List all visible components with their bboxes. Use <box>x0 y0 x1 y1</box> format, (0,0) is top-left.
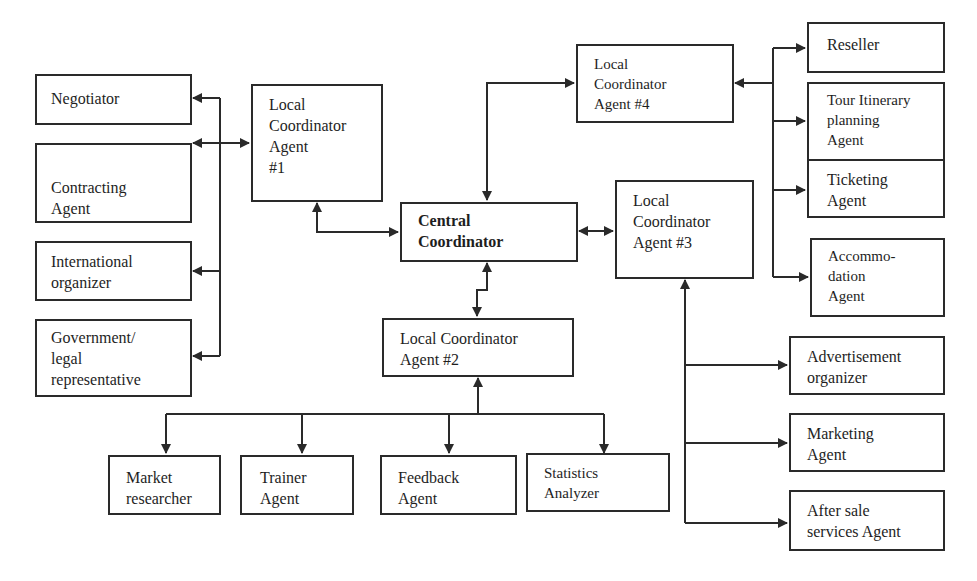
international-organizer-node: International organizer <box>35 241 192 301</box>
contracting-agent-node: Contracting Agent <box>35 143 192 223</box>
advertisement-organizer-node: Advertisement organizer <box>789 336 945 395</box>
local-coordinator-agent-2: Local Coordinator Agent #2 <box>382 318 574 377</box>
government-legal-representative-node: Government/ legal representative <box>35 319 192 397</box>
market-researcher-node: Market researcher <box>108 455 221 515</box>
accommodation-agent-node: Accommo- dation Agent <box>810 238 945 317</box>
node-label: Contracting Agent <box>51 177 190 219</box>
statistics-analyzer-node: Statistics Analyzer <box>526 453 670 512</box>
node-label: Local Coordinator Agent #4 <box>594 54 732 114</box>
node-label: Marketing Agent <box>807 423 943 465</box>
after-sale-services-agent-node: After sale services Agent <box>789 490 945 551</box>
node-label: International organizer <box>51 251 190 293</box>
local-coordinator-agent-4: Local Coordinator Agent #4 <box>576 44 734 123</box>
node-label: Local Coordinator Agent #2 <box>400 328 572 370</box>
node-label: Market researcher <box>126 467 219 509</box>
node-label: Ticketing Agent <box>827 169 943 211</box>
local-coordinator-agent-3: Local Coordinator Agent #3 <box>615 180 754 279</box>
ticketing-agent-node: Ticketing Agent <box>807 159 945 218</box>
arrow-lca4-central <box>487 83 574 200</box>
node-label: Accommo- dation Agent <box>828 246 943 306</box>
feedback-agent-node: Feedback Agent <box>380 455 517 515</box>
node-label: Trainer Agent <box>260 467 352 509</box>
node-label: After sale services Agent <box>807 500 943 542</box>
arrow-central-lca2 <box>477 263 487 316</box>
reseller-node: Reseller <box>807 22 945 73</box>
trainer-agent-node: Trainer Agent <box>240 455 354 515</box>
node-label: Reseller <box>827 34 943 55</box>
node-label: Statistics Analyzer <box>544 463 668 503</box>
tour-itinerary-planning-agent-node: Tour Itinerary planning Agent <box>807 82 945 161</box>
negotiator-node: Negotiator <box>35 74 192 125</box>
arrow-lca1-central <box>317 203 398 232</box>
marketing-agent-node: Marketing Agent <box>789 413 945 472</box>
node-label: Negotiator <box>51 88 190 109</box>
node-label: Tour Itinerary planning Agent <box>827 90 943 150</box>
node-label: Feedback Agent <box>398 467 515 509</box>
node-label: Central Coordinator <box>418 210 576 252</box>
central-coordinator: Central Coordinator <box>400 202 578 262</box>
node-label: Local Coordinator Agent #1 <box>269 94 381 178</box>
node-label: Advertisement organizer <box>807 346 943 388</box>
local-coordinator-agent-1: Local Coordinator Agent #1 <box>251 84 383 202</box>
node-label: Local Coordinator Agent #3 <box>633 190 752 253</box>
node-label: Government/ legal representative <box>51 327 190 390</box>
